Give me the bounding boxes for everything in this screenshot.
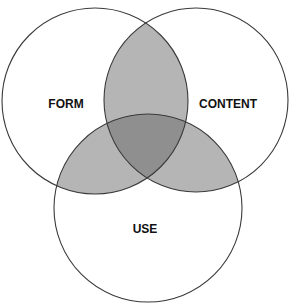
venn-diagram: FORM CONTENT USE <box>0 0 289 308</box>
label-content: CONTENT <box>199 97 258 111</box>
label-form: FORM <box>48 97 83 111</box>
label-use: USE <box>133 222 158 236</box>
